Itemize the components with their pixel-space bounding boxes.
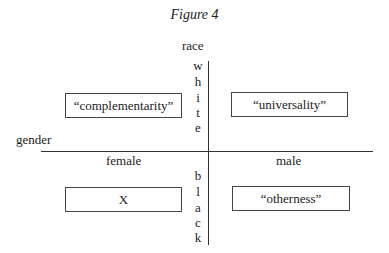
black-letter: a (188, 200, 208, 216)
white-letter: h (188, 74, 208, 90)
gender-axis-label: gender (16, 132, 51, 148)
black-letter: l (188, 184, 208, 200)
white-letter: i (188, 90, 208, 106)
white-letter: e (188, 120, 208, 136)
horizontal-axis-line (41, 151, 373, 152)
male-label: male (276, 153, 301, 169)
quadrant-box-x: X (65, 187, 182, 212)
white-letter: t (188, 105, 208, 121)
quadrant-box-universality: “universality” (231, 92, 348, 117)
quadrant-box-otherness: “otherness” (232, 186, 350, 211)
figure-title: Figure 4 (0, 7, 389, 23)
race-axis-label: race (182, 38, 204, 54)
white-letter: w (188, 58, 208, 74)
black-letter: c (188, 215, 208, 231)
quadrant-box-complementarity: “complementarity” (65, 93, 182, 118)
black-letter: b (188, 168, 208, 184)
vertical-axis-line (208, 61, 209, 245)
black-letter: k (188, 230, 208, 246)
female-label: female (106, 153, 141, 169)
